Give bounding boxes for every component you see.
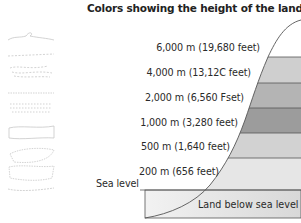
level-label-200: 200 m (656 feet) (139, 166, 219, 177)
level-label-6000: 6,000 m (19,680 feet) (156, 42, 260, 53)
level-label-500: 500 m (1,640 feet) (141, 141, 230, 152)
level-label-2000: 2,000 m (6,560 Fset) (145, 92, 244, 103)
sea-level-label: Sea level (96, 178, 139, 189)
elevation-diagram (0, 0, 301, 223)
level-label-4000: 4,000 m (13,12C feet) (147, 67, 251, 78)
below-sea-level-label: Land below sea level (198, 199, 299, 210)
legend-symbols (8, 33, 54, 191)
level-label-1000: 1,000 m (3,280 feet) (140, 117, 238, 128)
